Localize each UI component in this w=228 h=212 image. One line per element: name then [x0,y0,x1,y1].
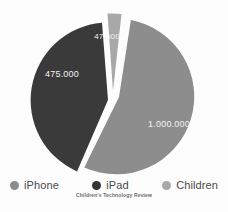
legend-swatch-icon-children [162,181,171,190]
pie-slice-children[interactable] [108,13,122,91]
pie-chart-plot-area: 1.000.000 475.000 47.500 [0,0,228,178]
pie-chart-figure: 1.000.000 475.000 47.500 iPhone iPad Chi… [0,0,228,212]
legend-item-iphone[interactable]: iPhone [10,179,59,191]
pie-slice-value-ipad: 475.000 [45,69,79,79]
pie-chart-svg: 1.000.000 475.000 47.500 [0,0,228,178]
chart-source-caption: Children's Technology Review [0,192,228,198]
pie-slice-value-iphone: 1.000.000 [148,119,190,129]
chart-legend: iPhone iPad Children [0,177,228,193]
legend-label-ipad: iPad [106,179,128,191]
legend-swatch-icon-iphone [10,181,19,190]
legend-item-ipad[interactable]: iPad [92,179,128,191]
pie-slice-value-children: 47.500 [94,32,120,41]
legend-swatch-icon-ipad [92,181,101,190]
legend-label-children: Children [176,179,218,191]
legend-item-children[interactable]: Children [162,179,218,191]
legend-label-iphone: iPhone [24,179,59,191]
